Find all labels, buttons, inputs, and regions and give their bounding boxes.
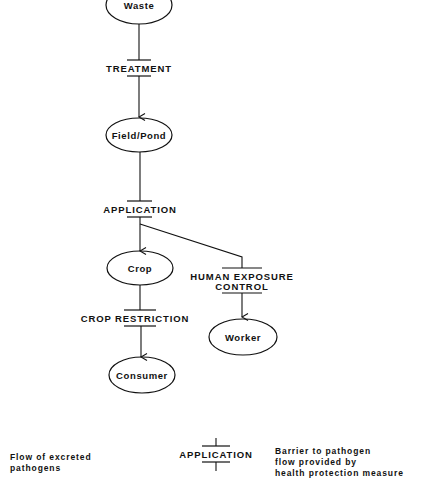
- node-consumer-label: Consumer: [116, 370, 168, 381]
- barrier-treatment-label: TREATMENT: [106, 63, 172, 74]
- legend-barrier-symbol: APPLICATION: [179, 438, 253, 471]
- node-worker-label: Worker: [225, 332, 261, 343]
- node-crop: Crop: [107, 251, 173, 285]
- legend-barrier-description: Barrier to pathogen flow provided by hea…: [275, 446, 404, 479]
- legend-barrier-example-label: APPLICATION: [179, 449, 253, 460]
- node-field-pond-label: Field/Pond: [112, 130, 167, 141]
- node-consumer: Consumer: [109, 357, 175, 393]
- barrier-crop-restriction-label: CROP RESTRICTION: [81, 313, 190, 324]
- node-waste: Waste: [106, 0, 172, 24]
- barrier-crop-restriction: CROP RESTRICTION: [81, 310, 190, 326]
- node-field-pond: Field/Pond: [106, 118, 172, 152]
- barrier-treatment: TREATMENT: [106, 60, 172, 76]
- barrier-human-exposure-label-2: CONTROL: [215, 281, 268, 292]
- barrier-application-label: APPLICATION: [103, 204, 177, 215]
- barrier-application: APPLICATION: [103, 201, 177, 217]
- node-waste-label: Waste: [124, 0, 155, 11]
- node-worker: Worker: [209, 319, 277, 355]
- legend-flow-description: Flow of excreted pathogens: [10, 452, 91, 474]
- node-crop-label: Crop: [128, 263, 153, 274]
- pathogen-flow-diagram: Waste TREATMENT Field/Pond APPLICATION H…: [0, 0, 437, 486]
- barrier-human-exposure-control: HUMAN EXPOSURE CONTROL: [190, 268, 293, 293]
- flow-branch-line: [140, 224, 242, 268]
